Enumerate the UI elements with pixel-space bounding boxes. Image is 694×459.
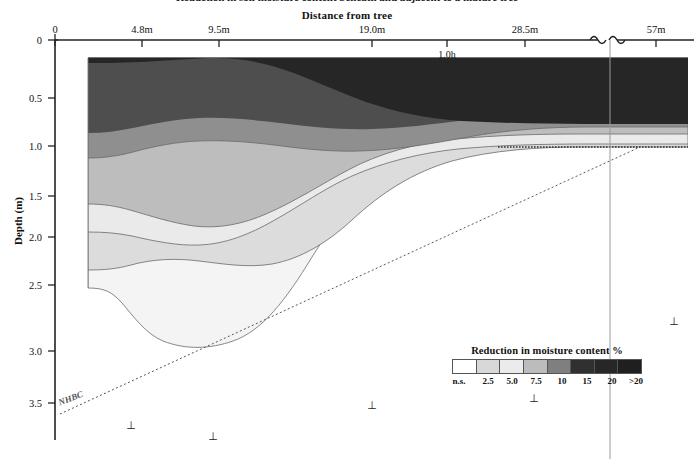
- borehole-marker-5: ⊥: [669, 315, 679, 328]
- y-axis-ticks: [48, 40, 58, 403]
- legend-swatch-20: [595, 360, 619, 373]
- ytick-label-3p0: 3.0: [6, 346, 42, 357]
- ytick-label-0p5: 0.5: [6, 93, 42, 104]
- legend-swatch-gt20: [618, 360, 641, 373]
- legend-label-7p5: 7.5: [530, 376, 541, 386]
- legend-label-gt20: >20: [629, 376, 643, 386]
- legend-label-5p0: 5.0: [506, 376, 517, 386]
- legend-labels: n.s. 2.5 5.0 7.5 10 15 20 >20: [452, 376, 642, 388]
- xtick-label-57m: 57m: [647, 24, 666, 35]
- legend-label-20: 20: [608, 376, 617, 386]
- legend: Reduction in moisture content % n.s. 2.5…: [452, 345, 642, 388]
- contour-plot: [0, 0, 694, 459]
- legend-swatch-7p5: [524, 360, 548, 373]
- legend-swatch-2p5: [477, 360, 501, 373]
- ytick-label-1p0: 1.0: [6, 141, 42, 152]
- borehole-marker-4: ⊥: [529, 392, 539, 405]
- legend-color-bar: [452, 359, 642, 374]
- xtick-label-19p0: 19.0m: [359, 24, 386, 35]
- legend-label-15: 15: [583, 376, 592, 386]
- xtick-label-9p5: 9.5m: [208, 24, 229, 35]
- ytick-label-0: 0: [6, 35, 42, 46]
- xtick-label-0: 0: [52, 24, 57, 35]
- ytick-label-3p5: 3.5: [6, 398, 42, 409]
- ytick-label-2p5: 2.5: [6, 280, 42, 291]
- borehole-marker-1: ⊥: [126, 419, 136, 432]
- legend-label-2p5: 2.5: [482, 376, 493, 386]
- legend-swatch-ns: [453, 360, 477, 373]
- xtick-label-4p8: 4.8m: [131, 24, 152, 35]
- legend-swatch-5p0: [500, 360, 524, 373]
- figure-root: Reduction in soil moisture content benea…: [0, 0, 694, 459]
- legend-label-ns: n.s.: [452, 376, 465, 386]
- xtick-label-28p5: 28.5m: [512, 24, 539, 35]
- annotation-1h: 1.0h: [438, 49, 456, 60]
- borehole-marker-2: ⊥: [208, 430, 218, 443]
- legend-swatch-15: [571, 360, 595, 373]
- legend-title: Reduction in moisture content %: [452, 345, 642, 356]
- legend-swatch-10: [548, 360, 572, 373]
- borehole-marker-3: ⊥: [367, 399, 377, 412]
- ytick-label-1p5: 1.5: [6, 191, 42, 202]
- ytick-label-2p0: 2.0: [6, 232, 42, 243]
- legend-label-10: 10: [558, 376, 567, 386]
